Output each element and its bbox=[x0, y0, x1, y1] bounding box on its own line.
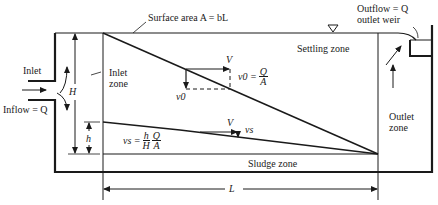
vs-label: vs bbox=[245, 124, 253, 135]
H-label: H bbox=[69, 86, 76, 97]
outlet-weir bbox=[410, 40, 432, 56]
sludge-zone-label: Sludge zone bbox=[248, 158, 297, 169]
h-label: h bbox=[86, 133, 91, 144]
v0-eq-lhs: v0 = bbox=[238, 71, 257, 82]
vs-eq-lhs: vs = bbox=[123, 135, 141, 146]
outlet-flow-arrow-diagonal bbox=[386, 46, 401, 65]
V-bottom-label: V bbox=[227, 117, 233, 128]
v0-equation: v0 = QA bbox=[238, 67, 268, 86]
v0-eq-den: A bbox=[260, 77, 266, 86]
surface-area-leader bbox=[133, 22, 146, 33]
v0-label: v0 bbox=[176, 91, 185, 102]
inlet-label: Inlet bbox=[23, 65, 41, 76]
outflow-label: Outflow = Q bbox=[357, 3, 408, 14]
inlet-zone-label-1: Inlet bbox=[109, 67, 127, 78]
inlet-zone-leader bbox=[91, 72, 101, 75]
outflow-leader bbox=[413, 27, 418, 38]
inflow-label: Inflow = Q bbox=[3, 104, 48, 115]
vs-eq-den2: A bbox=[153, 141, 159, 150]
outlet-zone-label-2: zone bbox=[389, 122, 408, 133]
vs-eq-den1: H bbox=[143, 141, 150, 150]
vs-equation: vs = hH QA bbox=[123, 131, 161, 150]
outlet-weir-label-text: outlet weir bbox=[357, 14, 400, 25]
water-surface-triangle-icon bbox=[328, 25, 338, 32]
L-label: L bbox=[229, 183, 235, 194]
settling-tank-diagram bbox=[0, 0, 438, 205]
surface-area-label: Surface area A = bL bbox=[148, 12, 228, 23]
inlet-zone-label-2: zone bbox=[109, 78, 128, 89]
outlet-zone-label-1: Outlet bbox=[389, 111, 414, 122]
flow-up-arrow bbox=[60, 67, 67, 93]
settling-zone-label: Settling zone bbox=[297, 43, 350, 54]
flow-down-arrow bbox=[57, 93, 67, 110]
V-top-label: V bbox=[226, 54, 232, 65]
